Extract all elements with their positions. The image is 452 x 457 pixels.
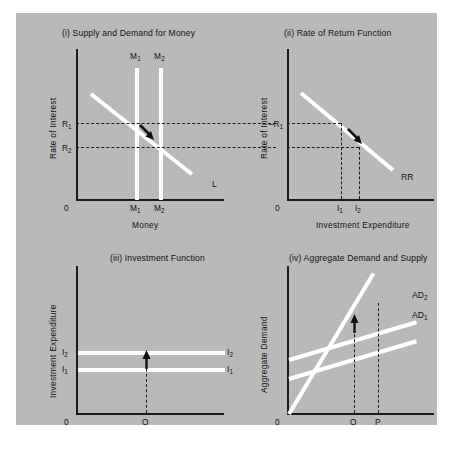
- panel-iv-y-axis-label: Aggregate Demand: [259, 316, 269, 393]
- panel-ii-dash-I2: [359, 147, 360, 199]
- curve-AS: [287, 272, 375, 415]
- panel-i-tick-R2: R2: [62, 143, 72, 153]
- panel-iv-tick-Q: Q: [350, 417, 356, 425]
- panel-iv-tick-P: P: [375, 417, 381, 425]
- panel-iv-shift-arrow: [349, 313, 361, 335]
- panel-ii-dash-I1: [341, 123, 342, 199]
- curve-I1-label: I1: [227, 364, 233, 374]
- curve-AD1-label: AD1: [412, 310, 428, 320]
- panel-iv-title: (iv) Aggregate Demand and Supply: [289, 253, 428, 263]
- panel-iv-origin-label: 0: [275, 417, 280, 425]
- panel-iii-tick-Q: Q: [142, 417, 148, 425]
- panel-ii-dash-R2: [287, 147, 359, 148]
- curve-RR-label: RR: [401, 172, 413, 182]
- panel-i-y-axis-label: Rate of Interest: [48, 97, 58, 159]
- panel-ii-title: (ii) Rate of Return Function: [284, 28, 391, 38]
- curve-AD1: [288, 339, 417, 381]
- panel-iii-y-axis-label: Investment Expenditure: [48, 304, 58, 398]
- panel-ii-shift-arrow: [346, 127, 368, 147]
- panel-ii-tick-I2: I2: [355, 203, 361, 213]
- panel-iii-title: (iii) Investment Function: [110, 253, 205, 263]
- curve-L-label: L: [212, 179, 217, 189]
- curve-I2-label: I2: [227, 347, 233, 357]
- curve-AD2-label: AD2: [412, 290, 428, 300]
- panel-ii-y-axis: [287, 49, 289, 200]
- panel-i-tick-R1: R1: [62, 119, 72, 129]
- panel-ii-y-axis-label: Rate of Interest: [259, 97, 269, 159]
- panel-i-y-axis: [76, 49, 78, 200]
- figure-panel: (i) Supply and Demand for Money Rate of …: [16, 13, 437, 425]
- curve-M1-label: M1: [130, 51, 141, 61]
- panel-iii-tick-I2: I2: [62, 347, 68, 357]
- panel-iii-shift-arrow: [141, 349, 153, 371]
- panel-ii-x-axis-label: Investment Expenditure: [316, 220, 410, 230]
- panel-i-title: (i) Supply and Demand for Money: [62, 28, 195, 38]
- panel-i-shift-arrow: [138, 123, 160, 143]
- panel-i-tick-M1: M1: [130, 203, 140, 213]
- leader-R1-left: [76, 123, 276, 124]
- panel-iv-x-axis: [287, 413, 434, 415]
- panel-ii-dash-R1: [287, 123, 341, 124]
- panel-iv-dash-P: [378, 303, 379, 413]
- panel-i-x-axis: [76, 199, 224, 201]
- panel-iv-y-axis: [287, 266, 289, 414]
- panel-ii-x-axis: [287, 199, 434, 201]
- panel-iii-x-axis: [76, 413, 224, 415]
- panel-i-tick-M2: M2: [154, 203, 164, 213]
- panel-iii-y-axis: [76, 266, 78, 414]
- panel-ii-tick-I1: I1: [337, 203, 343, 213]
- panel-ii-tick-R1: –R1: [269, 119, 283, 129]
- panel-i-x-axis-label: Money: [132, 220, 158, 230]
- curve-M2-label: M2: [154, 51, 165, 61]
- panel-iii-tick-I1: I1: [62, 364, 68, 374]
- panel-iii-origin-label: 0: [64, 417, 69, 425]
- panel-ii-origin-label: 0: [275, 203, 280, 213]
- leader-R2-left: [76, 147, 276, 148]
- panel-i-origin-label: 0: [64, 203, 69, 213]
